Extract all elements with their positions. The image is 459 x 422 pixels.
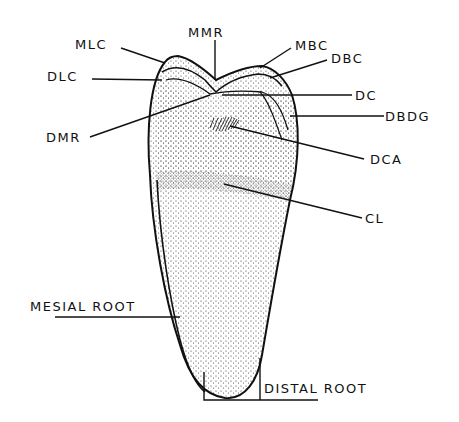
label-mlc: MLC	[75, 38, 107, 51]
label-mbc: MBC	[295, 39, 328, 52]
label-dlc: DLC	[47, 70, 78, 83]
label-dbc: DBC	[331, 52, 363, 65]
tooth-illustration	[0, 0, 459, 422]
label-distal-root: DISTAL ROOT	[264, 382, 367, 395]
label-cl: CL	[365, 212, 384, 225]
label-dca: DCA	[370, 153, 402, 166]
label-mesial-root: MESIAL ROOT	[30, 300, 136, 313]
tooth-diagram: MLC MMR MBC DBC DLC DC DMR DBDG DCA CL M…	[0, 0, 459, 422]
label-dc: DC	[355, 89, 377, 102]
label-dmr: DMR	[46, 131, 81, 144]
label-mmr: MMR	[188, 26, 224, 39]
label-dbdg: DBDG	[385, 110, 430, 123]
